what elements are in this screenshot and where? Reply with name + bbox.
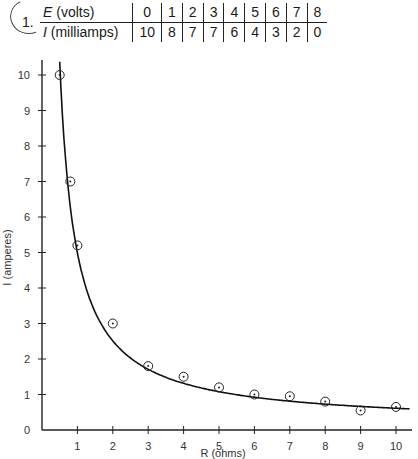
- y-tick-label: 6: [24, 211, 30, 223]
- data-point-dot: [360, 409, 362, 411]
- x-tick-label: 2: [110, 440, 116, 452]
- y-tick-label: 5: [24, 247, 30, 259]
- y-tick-label: 8: [24, 140, 30, 152]
- x-tick-label: 3: [145, 440, 151, 452]
- y-axis-label: I (amperes): [1, 229, 13, 285]
- x-tick-label: 6: [251, 440, 257, 452]
- data-point-dot: [395, 406, 397, 408]
- x-tick-label: 8: [322, 440, 328, 452]
- x-tick-label: 7: [287, 440, 293, 452]
- data-point-dot: [147, 365, 149, 367]
- y-tick-label: 7: [24, 176, 30, 188]
- data-point-dot: [76, 244, 78, 246]
- x-tick-label: 10: [390, 440, 402, 452]
- x-tick-label: 1: [74, 440, 80, 452]
- y-tick-label: 0: [24, 424, 30, 436]
- fit-curve: [60, 62, 410, 409]
- data-point-dot: [183, 376, 185, 378]
- y-tick-label: 2: [24, 353, 30, 365]
- data-point-dot: [59, 74, 61, 76]
- y-tick-label: 3: [24, 318, 30, 330]
- data-point-dot: [324, 401, 326, 403]
- x-tick-label: 4: [181, 440, 187, 452]
- chart: 01234567891012345678910R (ohms)I (ampere…: [0, 0, 418, 459]
- y-tick-label: 1: [24, 389, 30, 401]
- data-point-dot: [253, 394, 255, 396]
- y-tick-label: 9: [24, 105, 30, 117]
- data-point-dot: [69, 181, 71, 183]
- x-axis-label: R (ohms): [200, 447, 245, 459]
- data-point-dot: [112, 323, 114, 325]
- y-tick-label: 4: [24, 282, 30, 294]
- x-tick-label: 9: [358, 440, 364, 452]
- data-point-dot: [289, 395, 291, 397]
- y-tick-label: 10: [18, 69, 30, 81]
- data-point-dot: [218, 386, 220, 388]
